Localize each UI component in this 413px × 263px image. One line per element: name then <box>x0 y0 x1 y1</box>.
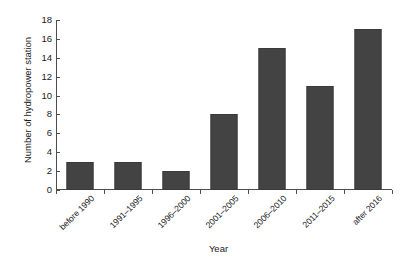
x-axis-tick-label: after 2016 <box>351 194 384 227</box>
bar-slot <box>296 20 344 190</box>
x-axis-tick-label: 1991–1995 <box>108 194 144 230</box>
bar[interactable] <box>115 162 142 190</box>
bar-slot <box>344 20 392 190</box>
bar[interactable] <box>163 171 190 190</box>
y-axis-tick-label: 18 <box>34 15 52 25</box>
bar[interactable] <box>67 162 94 190</box>
y-axis-tick-label: 12 <box>34 72 52 82</box>
y-axis-tick-label: 4 <box>34 147 52 157</box>
plot-area <box>56 20 392 190</box>
x-axis-tick-label: before 1990 <box>58 194 96 232</box>
bar-slot <box>200 20 248 190</box>
x-axis-tick-labels: before 19901991–19951996–20002001–200520… <box>56 190 392 250</box>
x-axis-tick-mark <box>392 190 393 194</box>
y-axis-tick-label: 10 <box>34 91 52 101</box>
y-axis-tick-label: 8 <box>34 110 52 120</box>
bar-chart-figure: Number of hydropower station 02468101214… <box>0 0 413 263</box>
bar[interactable] <box>355 29 382 190</box>
bar-slot <box>152 20 200 190</box>
x-axis-title: Year <box>0 243 413 254</box>
bar[interactable] <box>307 86 334 190</box>
bar-slot <box>248 20 296 190</box>
x-axis-tick-label: 2006–2010 <box>252 194 288 230</box>
bar-slot <box>104 20 152 190</box>
y-axis-tick-label: 2 <box>34 166 52 176</box>
bar-slot <box>56 20 104 190</box>
y-axis-tick-label: 14 <box>34 53 52 63</box>
x-axis-tick-label: 2001–2005 <box>204 194 240 230</box>
bar[interactable] <box>259 48 286 190</box>
y-axis-tick-labels: 024681012141618 <box>34 0 52 263</box>
y-axis-tick-label: 16 <box>34 34 52 44</box>
bars-layer <box>56 20 392 190</box>
bar[interactable] <box>211 114 238 190</box>
y-axis-tick-label: 0 <box>34 185 52 195</box>
x-axis-tick-label: 1996–2000 <box>156 194 192 230</box>
x-axis-tick-label: 2011–2015 <box>301 194 337 230</box>
y-axis-tick-label: 6 <box>34 129 52 139</box>
